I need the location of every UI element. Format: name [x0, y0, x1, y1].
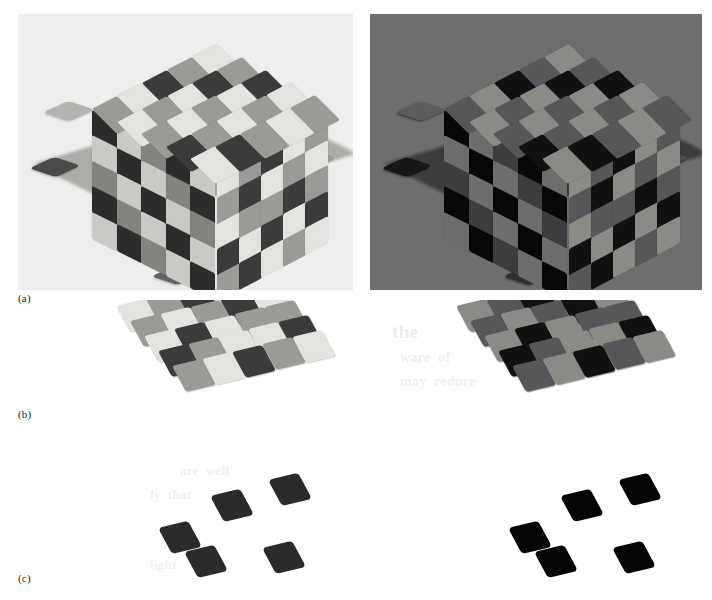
isolated-tile [534, 545, 578, 578]
caption-c: (c) [18, 572, 31, 584]
panel-a-left-bright-scene [18, 14, 353, 290]
isolated-tile [184, 545, 228, 578]
panel-b-left-isolated-board [110, 300, 360, 425]
shadow-board-stage [450, 300, 700, 425]
panel-c-left-isolated-tiles [150, 470, 350, 590]
bright-board-stage [110, 300, 360, 425]
isolated-tile [612, 541, 656, 574]
bleed-text-line-1: the [392, 318, 418, 346]
isolated-tile [268, 473, 312, 506]
shadow-scene-stage [370, 14, 702, 290]
loose-tile [44, 101, 95, 121]
caption-b: (b) [18, 408, 31, 420]
loose-tile [396, 101, 447, 121]
isolated-tile [560, 489, 604, 522]
isolated-tile [262, 541, 306, 574]
panel-a-right-shadow-scene [370, 14, 702, 290]
isolated-tile [210, 489, 254, 522]
isolated-tile [618, 473, 662, 506]
bright-tiles-stage [150, 470, 350, 590]
bleed-text-line-2: ware of [400, 348, 450, 368]
bright-scene-stage [18, 14, 353, 290]
panel-c-right-isolated-tiles [500, 470, 700, 590]
caption-a: (a) [18, 292, 31, 304]
panel-b-right-isolated-board [450, 300, 700, 425]
figure-root: the ware of may reduce are well ly that … [0, 0, 712, 600]
shadow-tiles-stage [500, 470, 700, 590]
